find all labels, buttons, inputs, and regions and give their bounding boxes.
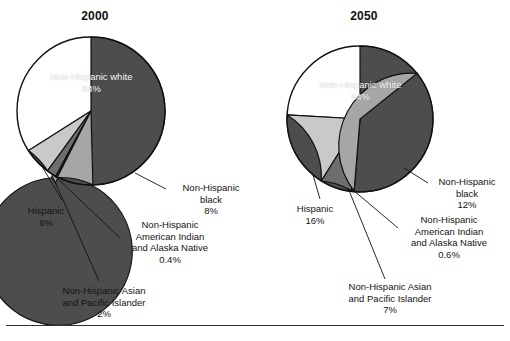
callout-2050-hispanic-name: Hispanic: [272, 203, 358, 215]
callout-2050-asian-value: 7%: [320, 304, 460, 316]
callout-2050-aian-line2: American Indian: [388, 226, 510, 238]
callout-2050-black: Non-Hispanic black 12%: [425, 176, 509, 211]
callout-2000-aian-line2: American Indian: [104, 231, 236, 243]
pie-2050-inner-label-value: 64%: [289, 91, 432, 103]
callout-2050-aian-line3: and Alaska Native: [388, 237, 510, 249]
callout-2000-aian-value: 0.4%: [104, 254, 236, 266]
callout-2050-asian-pacific-islander: Non-Hispanic Asian and Pacific Islander …: [320, 281, 460, 316]
callout-2050-black-name-line1: Non-Hispanic: [425, 176, 509, 188]
callout-2050-aian-line1: Non-Hispanic: [388, 214, 510, 226]
callout-2000-black: Non-Hispanic black 8%: [163, 182, 259, 217]
callout-2050-black-value: 12%: [425, 199, 509, 211]
callout-2000-black-name-line1: Non-Hispanic: [163, 182, 259, 194]
callout-2000-asian-line1: Non-Hispanic Asian: [38, 285, 170, 297]
callout-2000-hispanic: Hispanic 6%: [3, 205, 89, 228]
pie-2050-inner-label: Non-Hispanic white 64%: [289, 79, 432, 103]
leader-2000-black: [135, 173, 166, 189]
callout-2050-american-indian-alaska-native: Non-Hispanic American Indian and Alaska …: [388, 214, 510, 260]
pie-2000-inner-label: Non-Hispanic white 84%: [20, 71, 163, 95]
figure-panel: 2000 2050: [0, 0, 510, 341]
callout-2000-asian-line2: and Pacific Islander: [38, 297, 170, 309]
footer-divider: [6, 325, 504, 326]
callout-2000-black-value: 8%: [163, 205, 259, 217]
pie-2000-inner-label-value: 84%: [20, 83, 163, 95]
callout-2050-hispanic-value: 16%: [272, 215, 358, 227]
callout-2000-hispanic-value: 6%: [3, 217, 89, 229]
callout-2000-aian-line3: and Alaska Native: [104, 242, 236, 254]
callout-2050-aian-value: 0.6%: [388, 249, 510, 261]
callout-2000-asian-value: 2%: [38, 308, 170, 320]
callout-2050-black-name-line2: black: [425, 188, 509, 200]
callout-2000-hispanic-name: Hispanic: [3, 205, 89, 217]
callout-2050-hispanic: Hispanic 16%: [272, 203, 358, 226]
callout-2050-asian-line2: and Pacific Islander: [320, 293, 460, 305]
callout-2000-aian-line1: Non-Hispanic: [104, 219, 236, 231]
pie-2000-slices: [17, 37, 165, 185]
pie-2000-inner-label-name: Non-Hispanic white: [20, 71, 163, 83]
callout-2050-asian-line1: Non-Hispanic Asian: [320, 281, 460, 293]
callout-2000-black-name-line2: black: [163, 194, 259, 206]
pie-2050-inner-label-name: Non-Hispanic white: [289, 79, 432, 91]
pie-2050-slices: [287, 46, 433, 192]
callout-2000-asian-pacific-islander: Non-Hispanic Asian and Pacific Islander …: [38, 285, 170, 320]
callout-2000-american-indian-alaska-native: Non-Hispanic American Indian and Alaska …: [104, 219, 236, 265]
